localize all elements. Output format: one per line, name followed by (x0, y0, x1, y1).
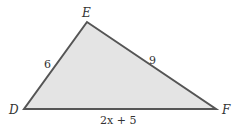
vertex-label-f: F (221, 103, 231, 117)
triangle-svg: E D F 6 9 2x + 5 (0, 0, 242, 127)
side-label-ef: 9 (149, 54, 156, 67)
side-label-de: 6 (44, 58, 51, 71)
triangle-diagram: E D F 6 9 2x + 5 (0, 0, 242, 127)
side-label-df: 2x + 5 (100, 114, 136, 127)
vertex-label-d: D (8, 103, 19, 117)
triangle-def (24, 22, 216, 109)
vertex-label-e: E (81, 6, 91, 20)
